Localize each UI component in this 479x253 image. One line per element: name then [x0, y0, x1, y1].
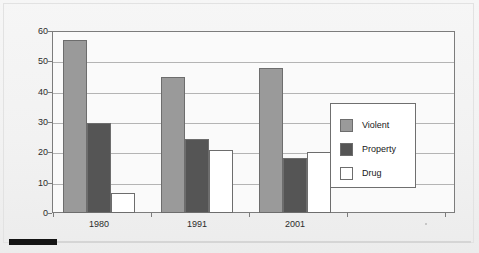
bar-1980-violent[interactable]	[63, 40, 87, 214]
bar-group-2001	[259, 32, 331, 213]
x-axis-tick-mark	[249, 213, 250, 217]
x-axis-labels: 1980 1991 2001	[53, 219, 454, 233]
legend-label-drug: Drug	[362, 168, 382, 178]
bar-2001-property[interactable]	[283, 158, 307, 213]
bar-1991-property[interactable]	[185, 139, 209, 213]
bar-chart-figure: 0 10 20 30 40 50 60	[0, 0, 479, 253]
legend-item-drug[interactable]: Drug	[340, 166, 382, 180]
legend-label-violent: Violent	[362, 120, 389, 130]
legend-label-property: Property	[362, 144, 396, 154]
x-axis-tick-label-1980: 1980	[69, 219, 129, 230]
scanned-page: 0 10 20 30 40 50 60	[0, 0, 479, 253]
bar-1980-property[interactable]	[87, 123, 111, 214]
bar-2001-violent[interactable]	[259, 68, 283, 213]
x-axis-tick-mark	[151, 213, 152, 217]
x-axis-tick-label-1991: 1991	[167, 219, 227, 230]
bar-1991-violent[interactable]	[161, 77, 185, 213]
scan-speck	[425, 223, 427, 225]
x-axis-tick-mark	[347, 213, 348, 217]
x-axis-tick-marks	[53, 213, 454, 218]
x-axis-tick-mark	[445, 213, 446, 217]
y-axis-tick-mark	[47, 213, 52, 214]
bar-2001-drug[interactable]	[307, 152, 331, 213]
legend-item-property[interactable]: Property	[340, 142, 396, 156]
x-axis-tick-mark	[53, 213, 54, 217]
chart-legend[interactable]: Violent Property Drug	[330, 103, 416, 188]
x-axis-tick-label-2001: 2001	[265, 219, 325, 230]
legend-item-violent[interactable]: Violent	[340, 118, 389, 132]
scan-artifact-bar	[9, 239, 57, 245]
bar-group-1991	[161, 32, 233, 213]
legend-swatch-drug-icon	[340, 167, 353, 180]
y-axis-tick-marks	[0, 31, 52, 213]
legend-swatch-violent-icon	[340, 119, 353, 132]
bar-1980-drug[interactable]	[111, 193, 135, 213]
scan-bottom-rule	[9, 241, 471, 243]
bar-group-1980	[63, 32, 135, 213]
legend-swatch-property-icon	[340, 143, 353, 156]
bar-1991-drug[interactable]	[209, 150, 233, 213]
